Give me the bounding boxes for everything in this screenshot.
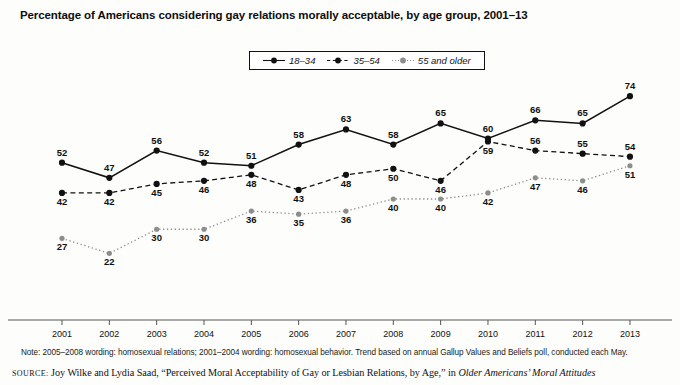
series-1: 52475652515863586560666574	[57, 80, 636, 181]
line-chart-plot: 2001200220032004200520062007200820092010…	[0, 0, 680, 345]
data-point[interactable]	[296, 212, 301, 217]
data-point-label: 46	[435, 184, 446, 195]
x-axis-tick-label: 2003	[147, 329, 167, 339]
data-point[interactable]	[580, 151, 586, 157]
data-point-label: 65	[577, 107, 588, 118]
data-point-label: 30	[199, 232, 210, 243]
data-point-label: 35	[293, 217, 304, 228]
source-label: SOURCE:	[12, 369, 49, 378]
data-point-label: 56	[151, 135, 162, 146]
data-point-label: 42	[483, 196, 494, 207]
data-point[interactable]	[580, 178, 585, 183]
data-point-label: 65	[435, 107, 446, 118]
data-point[interactable]	[485, 190, 490, 195]
data-point[interactable]	[107, 251, 112, 256]
data-point-label: 63	[341, 113, 352, 124]
data-point-label: 43	[293, 193, 304, 204]
x-axis-tick-label: 2010	[478, 329, 498, 339]
data-point-label: 42	[104, 196, 115, 207]
data-point-label: 60	[483, 123, 494, 134]
chart-figure: Percentage of Americans considering gay …	[0, 0, 680, 385]
x-axis-tick-label: 2006	[289, 329, 309, 339]
source-italic-title: Older Americans’ Moral Attitudes	[458, 367, 595, 378]
data-point-label: 59	[483, 145, 494, 156]
data-point[interactable]	[627, 163, 632, 168]
data-point[interactable]	[154, 227, 159, 232]
data-point[interactable]	[533, 175, 538, 180]
data-point-label: 52	[199, 147, 210, 158]
data-point-label: 36	[246, 214, 257, 225]
data-point[interactable]	[580, 120, 586, 126]
data-point[interactable]	[296, 141, 302, 147]
x-axis-tick-label: 2009	[431, 329, 451, 339]
data-point-label: 27	[57, 241, 68, 252]
data-point-label: 22	[104, 256, 115, 267]
x-axis-tick-label: 2013	[620, 329, 640, 339]
data-point-label: 48	[341, 178, 352, 189]
data-point-label: 74	[625, 80, 636, 91]
data-point[interactable]	[438, 120, 444, 126]
series-2: 42424546484348504659565554	[57, 135, 636, 207]
data-point[interactable]	[627, 154, 633, 160]
chart-note: Note: 2005–2008 wording: homosexual rela…	[21, 348, 628, 357]
data-point-label: 47	[104, 162, 115, 173]
data-point[interactable]	[627, 93, 633, 99]
data-point-label: 51	[246, 150, 257, 161]
series-line	[62, 96, 630, 178]
data-point-label: 52	[57, 147, 68, 158]
x-axis-tick-label: 2012	[573, 329, 593, 339]
data-point-label: 40	[435, 202, 446, 213]
x-axis-tick-label: 2007	[336, 329, 356, 339]
data-point-label: 58	[293, 129, 304, 140]
data-point[interactable]	[59, 160, 65, 166]
data-point[interactable]	[532, 117, 538, 123]
data-point[interactable]	[106, 175, 112, 181]
data-point[interactable]	[343, 209, 348, 214]
data-point-label: 47	[530, 181, 541, 192]
data-point[interactable]	[391, 196, 396, 201]
data-point-label: 48	[246, 178, 257, 189]
data-point-label: 46	[577, 184, 588, 195]
data-point[interactable]	[532, 148, 538, 154]
data-point-label: 42	[57, 196, 68, 207]
data-point[interactable]	[390, 141, 396, 147]
data-point-label: 55	[577, 138, 588, 149]
data-point-label: 50	[388, 172, 399, 183]
data-point[interactable]	[59, 236, 64, 241]
data-point[interactable]	[154, 148, 160, 154]
data-point-label: 51	[625, 169, 636, 180]
data-point-label: 45	[151, 187, 162, 198]
data-point[interactable]	[438, 196, 443, 201]
x-axis-tick-label: 2011	[526, 329, 545, 339]
data-point-label: 40	[388, 202, 399, 213]
data-point-label: 56	[530, 135, 541, 146]
x-axis-tick-label: 2004	[194, 329, 214, 339]
data-point[interactable]	[343, 126, 349, 132]
data-point[interactable]	[248, 163, 254, 169]
data-point-label: 36	[341, 214, 352, 225]
data-point[interactable]	[249, 209, 254, 214]
data-point-label: 54	[625, 141, 636, 152]
x-axis-tick-label: 2005	[241, 329, 261, 339]
data-point-label: 58	[388, 129, 399, 140]
data-point[interactable]	[201, 227, 206, 232]
x-axis-tick-label: 2002	[99, 329, 119, 339]
data-point-label: 46	[199, 184, 210, 195]
data-point-label: 30	[151, 232, 162, 243]
x-axis-tick-label: 2001	[52, 329, 72, 339]
x-axis-tick-label: 2008	[383, 329, 403, 339]
data-point[interactable]	[201, 160, 207, 166]
source-text: Joy Wilke and Lydia Saad, “Perceived Mor…	[49, 367, 459, 378]
chart-source: SOURCE: Joy Wilke and Lydia Saad, “Perce…	[12, 367, 595, 378]
data-point-label: 66	[530, 104, 541, 115]
